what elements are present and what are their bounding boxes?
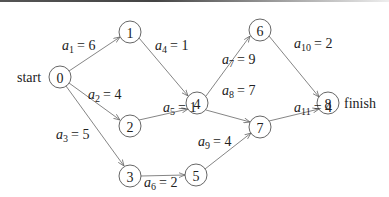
node-3: 3: [119, 165, 141, 187]
finish-label: finish: [344, 96, 376, 111]
node-7: 7: [249, 116, 271, 138]
edge-a8: [206, 110, 250, 122]
label-a7: a7= 9: [222, 52, 255, 69]
label-a11: a11= 4: [294, 100, 332, 117]
node-2: 2: [119, 115, 141, 137]
svg-text:1: 1: [127, 26, 134, 41]
label-a9: a9= 4: [198, 134, 231, 151]
start-label: start: [17, 70, 41, 85]
label-a2: a2= 4: [88, 87, 121, 104]
node-6: 6: [249, 19, 271, 41]
label-a8: a8= 7: [222, 83, 255, 100]
label-a4: a4= 1: [155, 38, 188, 55]
svg-text:0: 0: [57, 71, 64, 86]
label-a3: a3= 5: [56, 127, 89, 144]
node-5: 5: [185, 164, 207, 186]
svg-text:5: 5: [193, 169, 200, 184]
svg-text:3: 3: [127, 170, 134, 185]
node-0: 0: [49, 66, 71, 88]
svg-text:7: 7: [257, 121, 264, 136]
activity-network-diagram: 0 1 2 3 4 5 6 7 8 start finish a1= 6 a2=…: [0, 0, 389, 197]
label-a1: a1= 6: [62, 38, 95, 55]
svg-text:2: 2: [127, 120, 134, 135]
node-1: 1: [119, 21, 141, 43]
svg-text:6: 6: [257, 24, 264, 39]
label-a6: a6= 2: [144, 175, 177, 192]
label-a10: a10= 2: [294, 36, 332, 53]
label-a5: a5= 1: [163, 100, 196, 117]
